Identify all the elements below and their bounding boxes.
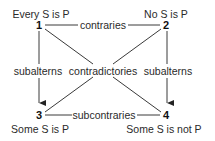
node-2-number: 2 <box>163 19 169 31</box>
contraries-label: contraries <box>80 19 126 31</box>
contradictories-line-1-to-4-upper <box>45 29 93 64</box>
node-4-number: 4 <box>163 109 170 121</box>
square-of-opposition: contraries subcontraries subalterns suba… <box>0 0 215 141</box>
contradictories-label: contradictories <box>69 65 137 77</box>
subcontraries-label: subcontraries <box>72 109 135 121</box>
subalterns-right-label: subalterns <box>144 65 192 77</box>
node-1-number: 1 <box>36 19 42 31</box>
contradictories-line-2-to-3-lower <box>45 77 93 112</box>
contradictories-line-1-to-4-lower <box>113 77 161 112</box>
node-2-label: No S is P <box>144 8 188 20</box>
node-1-label: Every S is P <box>12 8 69 20</box>
subalterns-left-label: subalterns <box>14 65 62 77</box>
node-3-number: 3 <box>36 109 42 121</box>
contradictories-line-2-to-3-upper <box>113 29 161 64</box>
node-3-label: Some S is P <box>11 123 69 135</box>
node-4-label: Some S is not P <box>126 123 201 135</box>
